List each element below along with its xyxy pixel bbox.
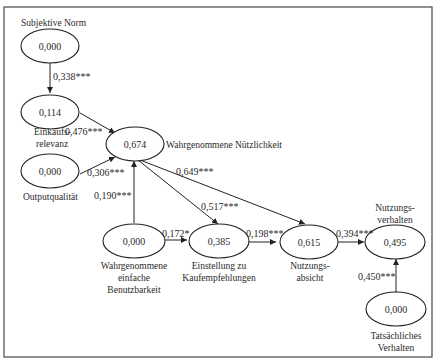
coef-er-nu: 0,476*** xyxy=(65,126,103,137)
node-einkaufsrelevanz: 0,114 xyxy=(21,95,79,129)
coef-bb-ei: 0,172* xyxy=(162,228,190,239)
label-nutzungsabsicht-1: Nutzungs- xyxy=(290,261,330,271)
coef-na-nv: 0,394*** xyxy=(336,228,374,239)
node-value: 0,674 xyxy=(124,139,147,150)
coef-ei-na: 0,198*** xyxy=(246,228,284,239)
label-nutzungsverhalten-1: Nutzungs- xyxy=(375,203,415,213)
coef-nu-ei: 0,517*** xyxy=(201,201,239,212)
node-benutzbarkeit: 0,000 xyxy=(103,224,165,258)
node-value: 0,000 xyxy=(123,236,146,247)
label-einkaufsrelevanz-2: relevanz xyxy=(36,139,68,149)
node-value: 0,000 xyxy=(39,41,62,52)
label-benutzbarkeit-3: Benutzbarkeit xyxy=(107,285,161,295)
node-nutzungsverhalten: 0,495 xyxy=(365,225,425,259)
node-einstellung: 0,385 xyxy=(189,224,249,258)
label-einstellung-2: Kaufempfehlungen xyxy=(182,273,256,283)
label-nutzungsverhalten-2: verhalten xyxy=(377,215,413,225)
node-tatsaechliches-verhalten: 0,000 xyxy=(366,292,426,326)
node-value: 0,000 xyxy=(385,304,408,315)
path-diagram: 0,000 0,114 0,000 0,674 0,000 0,385 0,61… xyxy=(0,0,438,363)
node-outputqualitaet: 0,000 xyxy=(21,154,79,188)
node-value: 0,495 xyxy=(384,237,407,248)
node-value: 0,615 xyxy=(298,237,321,248)
label-benutzbarkeit-2: einfache xyxy=(118,273,150,283)
label-tatsaechliches-2: Verhalten xyxy=(378,343,415,353)
coef-sn-er: 0,338*** xyxy=(53,71,91,82)
coef-nu-na: 0,649*** xyxy=(176,166,214,177)
node-subjektive-norm: 0,000 xyxy=(21,29,79,63)
edge-nu-na xyxy=(140,160,305,224)
label-tatsaechliches-1: Tatsächliches xyxy=(370,331,421,341)
label-nutzungsabsicht-2: absicht xyxy=(297,273,324,283)
coef-tv-nv: 0,450*** xyxy=(358,271,396,282)
label-benutzbarkeit-1: Wahrgenommene xyxy=(101,261,168,271)
node-value: 0,385 xyxy=(208,236,231,247)
label-nuetzlichkeit: Wahrgenommene Nützlichkeit xyxy=(166,140,282,150)
label-einstellung-1: Einstellung zu xyxy=(192,261,247,271)
node-nutzungsabsicht: 0,615 xyxy=(280,225,338,259)
node-value: 0,114 xyxy=(39,107,61,118)
label-outputqualitaet: Outputqualität xyxy=(23,192,78,202)
label-subjektive-norm: Subjektive Norm xyxy=(21,18,87,28)
node-value: 0,000 xyxy=(39,166,62,177)
coef-oq-nu: 0,306*** xyxy=(87,167,125,178)
coef-bb-nu: 0,190*** xyxy=(94,190,132,201)
node-nuetzlichkeit: 0,674 xyxy=(106,127,164,161)
